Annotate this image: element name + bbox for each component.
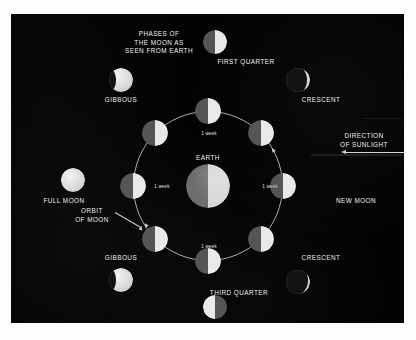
crescent-lower-terminator — [286, 270, 308, 294]
interval-label-top: 1 week — [197, 130, 221, 139]
phase-label-gibbous-lower: GIBBOUS — [90, 254, 152, 263]
scan-scuff-band-1 — [311, 154, 403, 156]
phase-moon-crescent-lower — [286, 270, 310, 294]
phase-moon-first-quarter — [203, 30, 227, 54]
phase-moon-full — [61, 168, 85, 192]
orbit-moon-lower-right — [248, 226, 274, 252]
orbit-moon-lower-left — [142, 226, 168, 252]
earth-body — [186, 164, 230, 208]
phase-label-third-quarter: THIRD QUARTER — [194, 289, 284, 298]
crescent-upper-terminator — [286, 68, 307, 92]
orbit-callout-arrowhead — [138, 225, 143, 230]
phase-moon-gibbous-lower — [109, 268, 133, 292]
figure-title: PHASES OF THE MOON AS SEEN FROM EARTH — [106, 30, 212, 56]
phase-label-first-quarter: FIRST QUARTER — [203, 58, 289, 67]
diagram-panel: EARTH 1 week 1 week 1 week 1 week PHASES… — [11, 14, 404, 323]
phase-moon-third-quarter — [203, 295, 227, 319]
orbit-of-moon-label: ORBIT OF MOON — [65, 207, 119, 224]
phase-label-crescent-lower: CRESCENT — [290, 254, 352, 263]
moon-phases-figure: EARTH 1 week 1 week 1 week 1 week PHASES… — [0, 0, 416, 340]
scan-scuff-band-2 — [363, 118, 404, 119]
phase-label-full-moon: FULL MOON — [31, 197, 97, 206]
interval-label-bottom: 1 week — [197, 243, 221, 252]
orbit-moon-bottom — [195, 248, 221, 274]
sunlight-direction-label: DIRECTION OF SUNLIGHT — [327, 132, 401, 149]
phase-label-gibbous-upper: GIBBOUS — [90, 96, 152, 105]
phase-label-crescent-upper: CRESCENT — [290, 96, 352, 105]
orbit-moon-left — [120, 173, 146, 199]
phase-label-new-moon: NEW MOON — [323, 197, 389, 206]
phase-moon-gibbous-upper — [109, 68, 133, 92]
orbit-moon-upper-left — [142, 120, 168, 146]
sunlight-arrow-head — [341, 150, 346, 154]
orbit-moon-upper-right — [248, 120, 274, 146]
earth-label: EARTH — [184, 154, 232, 163]
interval-label-left: 1 week — [150, 183, 174, 192]
phase-moon-crescent-upper — [286, 68, 310, 92]
orbit-moon-top — [195, 98, 221, 124]
sunlight-arrow-line — [346, 152, 404, 153]
interval-label-right: 1 week — [258, 183, 282, 192]
